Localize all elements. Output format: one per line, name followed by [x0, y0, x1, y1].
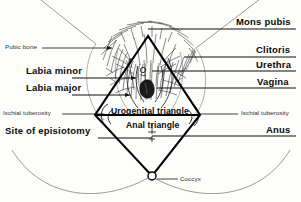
label-labia-minor: Labia minor [26, 66, 82, 76]
label-site-of-episiotomy: Site of episiotomy [5, 126, 90, 136]
label-coccyx: Coccyx [180, 176, 201, 182]
label-anal-triangle: Anal triangle [126, 121, 179, 130]
label-pubic-bone: Pubic bone [5, 44, 37, 50]
coccyx-marker [148, 172, 156, 180]
label-clitoris: Clitoris [256, 45, 290, 55]
label-vagina: Vagina [257, 77, 289, 87]
label-urethra: Urethra [256, 60, 291, 70]
label-urogenital-triangle: Urogenital triangle [111, 107, 189, 116]
label-ischial-tuberosity-left: Ischial tuberosity [3, 110, 51, 116]
anatomy-figure: Mons pubis Clitoris Urethra Vagina Ischi… [0, 0, 301, 202]
diagram-canvas [0, 0, 301, 202]
vaginal-opening [140, 80, 155, 98]
label-labia-major: Labia major [26, 83, 82, 93]
label-mons-pubis: Mons pubis [236, 17, 291, 27]
label-ischial-tuberosity-right: Ischial tuberosity [241, 110, 289, 116]
label-anus: Anus [266, 125, 291, 135]
